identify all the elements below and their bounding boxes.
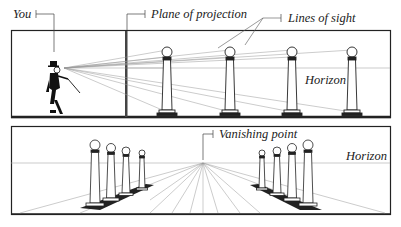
- converging-lines: [20, 163, 385, 213]
- pillar: [137, 150, 148, 190]
- pillar: [86, 140, 104, 206]
- pillar: [284, 144, 300, 202]
- pillar: [103, 144, 119, 202]
- label-lines-of-sight: Lines of sight: [288, 12, 355, 25]
- plane-of-projection: [125, 31, 128, 117]
- label-you: You: [13, 8, 31, 21]
- bottom-panel: [11, 127, 391, 215]
- pillar: [157, 47, 177, 116]
- label-vanishing-point: Vanishing point: [219, 128, 297, 141]
- pillar: [270, 147, 284, 196]
- label-horizon-bottom: Horizon: [346, 150, 387, 163]
- label-horizon-top: Horizon: [305, 74, 346, 87]
- top-panel: [11, 10, 391, 118]
- person-figure: [46, 61, 80, 114]
- pillar: [119, 147, 133, 196]
- pillar: [299, 140, 317, 206]
- label-plane-of-projection: Plane of projection: [151, 8, 247, 21]
- perspective-diagram: [0, 0, 401, 227]
